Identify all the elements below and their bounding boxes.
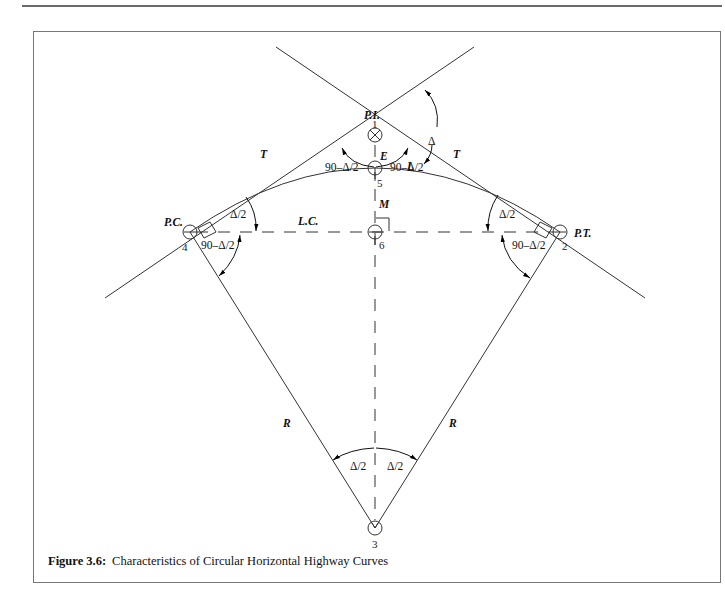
figure-caption: Figure 3.6:Characteristics of Circular H… xyxy=(48,554,388,569)
external-distance-label: E xyxy=(379,150,388,162)
pi-angle-label-right: 90–Δ/2 xyxy=(390,161,424,173)
pc-chord-angle-arc xyxy=(246,197,256,231)
long-chord-label: L.C. xyxy=(297,215,318,227)
pc-chord-angle-label: Δ/2 xyxy=(230,208,247,220)
radius-left-label: R xyxy=(282,417,291,429)
pc-marker-icon xyxy=(183,225,197,239)
pt-marker-icon xyxy=(553,225,567,239)
radius-line-right xyxy=(375,232,560,528)
chord-midpoint-number: 6 xyxy=(379,239,385,251)
deflection-angle-label: Δ xyxy=(428,135,435,147)
pc-label: P.C. xyxy=(164,216,183,228)
pc-radius-angle-label: 90–Δ/2 xyxy=(201,239,235,251)
pc-number: 4 xyxy=(182,241,188,253)
pt-number: 2 xyxy=(562,240,568,252)
center-marker-icon xyxy=(368,521,382,535)
pt-chord-angle-arc xyxy=(488,195,498,231)
pt-label: P.T. xyxy=(574,227,591,239)
center-angle-label-left: Δ/2 xyxy=(350,460,367,472)
horizontal-curve-diagram: P.I. 1 P.T. 2 3 P.C. 4 5 6 T T E L M L.C… xyxy=(0,0,725,608)
curve-midpoint-number: 5 xyxy=(377,177,383,189)
middle-ordinate-label: M xyxy=(378,198,390,210)
center-number: 3 xyxy=(372,538,378,550)
center-angle-arc-left xyxy=(333,448,374,460)
center-angle-label-right: Δ/2 xyxy=(387,460,404,472)
pi-marker-icon xyxy=(368,128,382,142)
center-angle-arc-right xyxy=(376,448,417,460)
pt-chord-angle-label: Δ/2 xyxy=(499,208,516,220)
radius-line-left xyxy=(190,232,375,528)
figure-caption-text: Characteristics of Circular Horizontal H… xyxy=(112,554,388,568)
figure-number: Figure 3.6: xyxy=(48,554,106,568)
deflection-angle-arc xyxy=(425,90,438,127)
tangent-left-label: T xyxy=(260,148,268,160)
pi-number: 1 xyxy=(372,118,378,130)
pi-angle-label-left: 90–Δ/2 xyxy=(325,161,359,173)
right-angle-marker-chord xyxy=(376,218,389,231)
radius-right-label: R xyxy=(448,417,457,429)
pt-radius-angle-label: 90–Δ/2 xyxy=(512,239,546,251)
deflection-angle-arc-lower xyxy=(424,145,432,164)
tangent-right-label: T xyxy=(453,148,461,160)
